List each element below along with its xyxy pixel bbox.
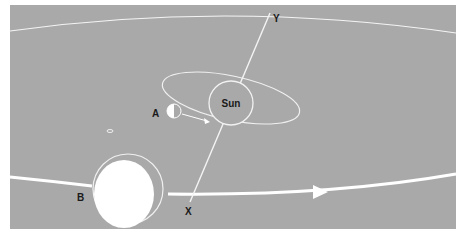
body-b-lit: [94, 160, 154, 228]
small-object: [107, 130, 113, 133]
a-to-sun-arrowhead: [204, 118, 210, 124]
orbit-direction-arrow: [313, 185, 328, 199]
orbit-diagram: Sun A B Y X: [0, 0, 463, 234]
outer-orbit-top: [10, 16, 456, 33]
sun-label: Sun: [222, 98, 241, 109]
outer-orbit-bottom: [10, 177, 92, 186]
body-a-lit: [167, 104, 174, 118]
a-to-sun-arrow-line: [182, 114, 207, 121]
outer-orbit-bottom-right: [168, 174, 456, 194]
label-x: X: [185, 206, 192, 217]
label-b: B: [77, 192, 84, 203]
label-y: Y: [273, 13, 280, 24]
label-a: A: [152, 108, 159, 119]
